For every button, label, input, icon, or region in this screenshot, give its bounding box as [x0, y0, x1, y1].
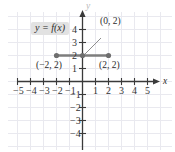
y-tick-label--2: −2	[70, 103, 81, 113]
y-axis-arrowhead	[79, 10, 85, 17]
y-tick-label--1: −1	[70, 90, 81, 100]
point-marker-right	[106, 53, 111, 58]
coordinate-plane-svg	[0, 0, 175, 152]
x-tick-label-4: 4	[132, 86, 137, 96]
x-tick-label-1: 1	[93, 86, 98, 96]
y-tick-label-2: 2	[72, 51, 77, 61]
x-axis-arrowhead	[153, 78, 160, 84]
function-label: y = f(x)	[31, 22, 69, 35]
y-tick-label--4: −4	[70, 129, 81, 139]
point-label-origin: (0, 2)	[100, 17, 121, 27]
y-axis-label: y	[86, 2, 90, 12]
x-tick-label--5: −5	[13, 86, 24, 96]
point-label-left: (−2, 2)	[36, 61, 62, 71]
x-axis-label: x	[163, 77, 167, 87]
y-tick-label-3: 3	[72, 38, 77, 48]
callout-leader-line	[85, 38, 101, 54]
graph-figure: y = f(x) x y −5 −4 −3 −2 −1 1 2 3 4 5 4 …	[0, 0, 175, 152]
point-marker-left	[54, 53, 59, 58]
point-label-right: (2, 2)	[99, 61, 120, 71]
y-tick-label-1: 1	[72, 64, 77, 74]
y-tick-label-4: 4	[72, 25, 77, 35]
x-tick-label--3: −3	[39, 86, 50, 96]
x-tick-label--2: −2	[52, 86, 63, 96]
x-tick-label--4: −4	[26, 86, 37, 96]
x-tick-label-3: 3	[119, 86, 124, 96]
point-marker-origin	[80, 53, 85, 58]
y-tick-label--3: −3	[70, 116, 81, 126]
x-tick-label-5: 5	[145, 86, 150, 96]
x-tick-label-2: 2	[106, 86, 111, 96]
